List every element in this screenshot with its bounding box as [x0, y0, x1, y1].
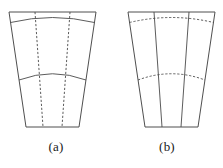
sector-outline-b — [128, 12, 215, 127]
radial-line-right-b — [181, 12, 189, 127]
arc-lower-b — [138, 74, 205, 80]
caption-b: (b) — [111, 139, 223, 155]
diagram-a — [0, 0, 112, 140]
arc-upper-b — [130, 18, 214, 23]
radial-line-right-a — [62, 12, 70, 127]
radial-line-left-b — [154, 12, 162, 127]
arc-upper-a — [11, 18, 95, 23]
caption-a: (a) — [0, 139, 112, 155]
figure-panel-a: (a) — [0, 0, 112, 168]
sector-outline-a — [9, 12, 96, 127]
radial-line-left-a — [35, 12, 43, 127]
arc-lower-a — [19, 74, 86, 80]
figure-container: (a) (b) — [0, 0, 223, 168]
figure-panel-b: (b) — [111, 0, 223, 168]
diagram-b — [111, 0, 223, 140]
